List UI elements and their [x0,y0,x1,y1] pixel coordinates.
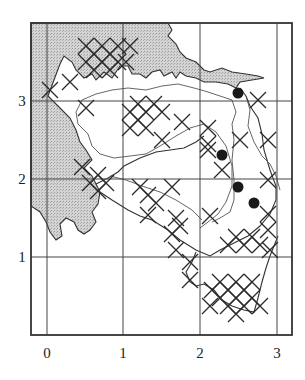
cross-marker [202,298,218,314]
cross-marker [174,114,190,130]
x-axis-labels: 0 1 2 3 [43,345,281,361]
distribution-map: 0 1 2 3 3 2 1 [0,0,305,380]
cross-marker [168,242,184,258]
cross-marker [154,132,170,148]
cross-marker [148,195,164,211]
cross-marker [260,206,276,222]
cross-marker [182,254,198,270]
cross-marker [172,218,188,234]
cross-marker [138,104,154,120]
y-tick-label: 2 [18,171,26,187]
cross-marker [140,207,156,223]
x-tick-label: 3 [273,345,281,361]
dot-marker [233,182,244,193]
cross-marker [212,274,228,290]
cross-marker [122,120,138,136]
cross-marker [244,274,260,290]
x-tick-label: 1 [119,345,127,361]
y-axis-labels: 3 2 1 [18,93,26,265]
y-tick-label: 3 [18,93,26,109]
cross-marker [78,100,94,116]
dot-marker [233,88,244,99]
cross-marker [260,222,276,238]
cross-marker [252,298,268,314]
shaded-region [31,23,264,240]
cross-marker [228,306,244,322]
cross-marker [138,120,154,136]
cross-marker [228,274,244,290]
cross-marker [154,104,170,120]
dot-marker [249,198,260,209]
x-tick-label: 0 [43,345,51,361]
cross-marker [214,162,230,178]
cross-marker [200,120,216,136]
cross-marker [98,175,114,191]
dot-marker [217,150,228,161]
cross-marker [250,92,266,108]
cross-marker [164,179,180,195]
cross-marker [182,272,198,288]
x-tick-label: 2 [196,345,204,361]
y-tick-label: 1 [18,249,26,265]
cross-marker [62,74,78,90]
